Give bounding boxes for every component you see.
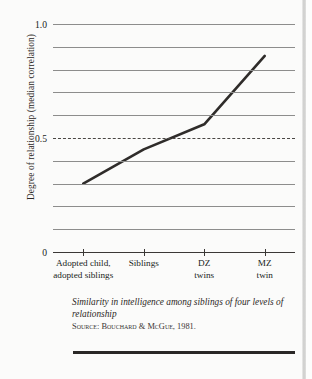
gridline	[53, 206, 295, 207]
x-axis-category-label: MZtwin	[257, 258, 273, 281]
x-axis-category-labels: Adopted child,adopted siblingsSiblingsDZ…	[53, 258, 295, 292]
x-axis-tick	[144, 249, 145, 256]
x-axis-category-label: DZtwins	[194, 258, 214, 281]
x-axis-category-line: MZ	[258, 258, 272, 268]
gridline	[53, 47, 295, 48]
x-axis-category-line: Siblings	[129, 258, 159, 268]
gridline	[53, 184, 295, 185]
x-axis-category-line: twin	[257, 270, 273, 280]
caption-source-label: Source:	[72, 322, 99, 331]
figure-caption: Similarity in intelligence among sibling…	[72, 297, 298, 331]
x-axis-tick	[83, 249, 84, 256]
chart-canvas: 00.51.0	[53, 24, 295, 252]
y-axis-label: Degree of relationship (median correlati…	[26, 2, 36, 232]
caption-title: Similarity in intelligence among sibling…	[72, 297, 298, 320]
bottom-divider-rule	[73, 351, 295, 354]
y-axis-tick-label: 1.0	[35, 19, 47, 30]
y-axis-tick-label: 0.5	[35, 133, 47, 144]
caption-source: Source: Bouchard & McGue, 1981.	[72, 322, 298, 331]
x-axis-category-label: Adopted child,adopted siblings	[53, 258, 113, 281]
caption-source-text: Bouchard & McGue, 1981.	[101, 322, 195, 331]
x-axis-category-line: DZ	[198, 258, 210, 268]
gridline	[53, 115, 295, 116]
x-axis-category-line: twins	[194, 270, 214, 280]
y-axis-tick-label: 0	[42, 247, 47, 258]
gridline	[53, 70, 295, 71]
gridline	[53, 229, 295, 230]
chart-plot-area: Degree of relationship (median correlati…	[0, 0, 312, 270]
gridline	[53, 24, 295, 25]
figure-page: Degree of relationship (median correlati…	[0, 0, 312, 379]
gridline	[53, 161, 295, 162]
x-axis-tick	[265, 249, 266, 256]
x-axis-category-line: Adopted child,	[56, 258, 111, 268]
page-margin	[306, 0, 312, 379]
gridline	[53, 138, 295, 139]
x-axis-line	[53, 252, 295, 253]
x-axis-category-label: Siblings	[129, 258, 159, 270]
x-axis-tick	[204, 249, 205, 256]
x-axis-category-line: adopted siblings	[53, 270, 113, 280]
gridline	[53, 92, 295, 93]
